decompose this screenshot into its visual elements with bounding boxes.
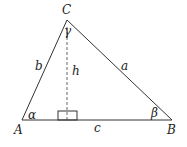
angle-label-gamma: γ xyxy=(64,24,72,38)
side-label-c: c xyxy=(94,121,101,135)
side-a xyxy=(67,20,172,120)
vertex-label-c: C xyxy=(62,3,71,17)
vertex-label-b: B xyxy=(166,123,176,137)
side-label-a: a xyxy=(121,59,128,73)
side-b xyxy=(22,20,67,120)
triangle-diagram: C A B b a c h α β γ xyxy=(0,0,187,147)
angle-label-beta: β xyxy=(150,106,158,120)
side-label-b: b xyxy=(35,59,43,73)
vertex-label-a: A xyxy=(13,123,23,137)
altitude-label-h: h xyxy=(72,64,80,78)
angle-label-alpha: α xyxy=(28,108,36,122)
